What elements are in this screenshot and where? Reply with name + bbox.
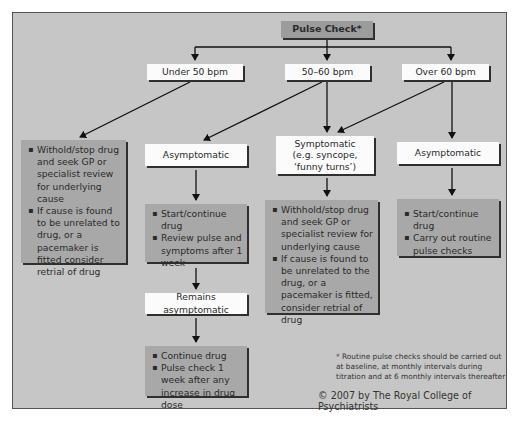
branch-over-60: Over 60 bpm	[402, 64, 489, 80]
pulse-check-title: Pulse Check*	[281, 21, 373, 38]
footnote: * Routine pulse checks should be carried…	[336, 352, 506, 382]
branch-under-50-label: Under 50 bpm	[162, 66, 228, 78]
under-50-action-2: If cause is found to be unrelated to dru…	[37, 205, 122, 278]
symptomatic-action-1: Withhold/stop drug and seek GP or specia…	[281, 204, 374, 253]
branch-50-60: 50–60 bpm	[285, 64, 370, 80]
remains-asymptomatic: Remains asymptomatic	[145, 293, 247, 314]
asymptomatic-50-60-action-list: Start/continue drug Review pulse and sym…	[150, 208, 243, 269]
remains-action-list: Continue drug Pulse check 1 week after a…	[150, 350, 243, 411]
under-50-action-1: Withold/stop drug and seek GP or special…	[37, 144, 122, 205]
over-60-action-2: Carry out routine pulse checks	[413, 232, 495, 256]
branch-over-60-label: Over 60 bpm	[415, 66, 475, 78]
asymptomatic-50-60-action-1: Start/continue drug	[161, 208, 243, 232]
copyright: © 2007 by The Royal College of Psychiatr…	[318, 390, 520, 412]
asymptomatic-50-60: Asymptomatic	[145, 144, 247, 166]
remains-action-1: Continue drug	[161, 350, 243, 362]
symptomatic-action-list: Withhold/stop drug and seek GP or specia…	[270, 204, 374, 326]
asymptomatic-50-60-action-box: Start/continue drug Review pulse and sym…	[145, 204, 247, 262]
over-60-action-box: Start/continue drug Carry out routine pu…	[397, 199, 499, 256]
under-50-action-list: Withold/stop drug and seek GP or special…	[26, 144, 122, 278]
asymptomatic-over-60: Asymptomatic	[397, 142, 499, 164]
asymptomatic-50-60-label: Asymptomatic	[163, 149, 229, 161]
remains-asymptomatic-label: Remains asymptomatic	[145, 291, 247, 315]
symptomatic-line-3: ‘funny turns’)	[294, 161, 356, 173]
branch-under-50: Under 50 bpm	[147, 64, 243, 80]
symptomatic-line-1: Symptomatic	[294, 138, 355, 150]
over-60-action-1: Start/continue drug	[413, 208, 495, 232]
symptomatic-line-2: (e.g. syncope,	[293, 149, 358, 161]
symptomatic-box: Symptomatic (e.g. syncope, ‘funny turns’…	[276, 136, 374, 174]
remains-action-box: Continue drug Pulse check 1 week after a…	[145, 346, 247, 396]
asymptomatic-over-60-label: Asymptomatic	[415, 147, 481, 159]
over-60-action-list: Start/continue drug Carry out routine pu…	[402, 208, 495, 257]
symptomatic-action-2: If cause is found to be unrelated to the…	[281, 253, 374, 326]
symptomatic-action-box: Withhold/stop drug and seek GP or specia…	[265, 200, 378, 313]
branch-50-60-label: 50–60 bpm	[302, 66, 354, 78]
asymptomatic-50-60-action-2: Review pulse and symptoms after 1 week	[161, 232, 243, 269]
remains-action-2: Pulse check 1 week after any increase in…	[161, 362, 243, 411]
under-50-action-box: Withold/stop drug and seek GP or special…	[21, 140, 126, 263]
title-text: Pulse Check*	[292, 23, 361, 35]
